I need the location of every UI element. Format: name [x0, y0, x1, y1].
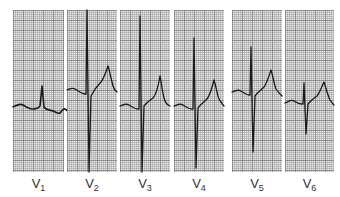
lead-label-v2: V2	[67, 176, 117, 193]
lead-number: 4	[201, 183, 206, 193]
ecg-trace-v2	[67, 10, 117, 172]
lead-letter: V	[250, 176, 259, 191]
lead-label-v4: V4	[174, 176, 224, 193]
ecg-trace-v5	[232, 10, 282, 172]
lead-number: 6	[311, 183, 316, 193]
lead-number: 5	[259, 183, 264, 193]
lead-panel-v2	[67, 10, 117, 172]
waveform-path	[285, 82, 334, 134]
waveform-path	[174, 38, 224, 168]
ecg-trace-v1	[13, 10, 64, 172]
lead-number: 2	[94, 183, 99, 193]
lead-number: 1	[40, 183, 45, 193]
ecg-trace-v4	[174, 10, 224, 172]
lead-panel-v6	[285, 10, 334, 172]
waveform-path	[67, 10, 117, 172]
ecg-trace-v6	[285, 10, 334, 172]
waveform-path	[13, 86, 70, 113]
lead-letter: V	[138, 176, 147, 191]
ecg-trace-v3	[120, 10, 170, 172]
lead-label-v6: V6	[285, 176, 335, 193]
waveform-path	[120, 16, 170, 172]
lead-label-v5: V5	[232, 176, 282, 193]
lead-label-v1: V1	[14, 176, 64, 193]
waveform-path	[232, 47, 282, 152]
lead-letter: V	[192, 176, 201, 191]
lead-number: 3	[147, 183, 152, 193]
lead-panel-v4	[174, 10, 224, 172]
lead-panel-v3	[120, 10, 170, 172]
lead-letter: V	[85, 176, 94, 191]
lead-panel-v1	[13, 10, 64, 172]
lead-label-v3: V3	[120, 176, 170, 193]
lead-panel-v5	[232, 10, 282, 172]
